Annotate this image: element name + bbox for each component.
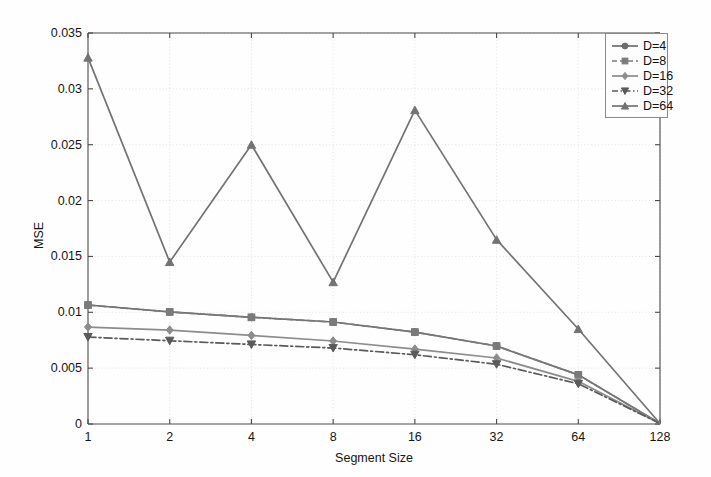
y-tick-label: 0.025	[51, 138, 82, 152]
series-d-8	[85, 302, 660, 424]
chart-legend: D=4D=8D=16D=32D=64	[605, 33, 668, 118]
x-tick-label: 1	[85, 430, 92, 444]
grid-lines	[88, 33, 660, 424]
legend-item-d-32[interactable]: D=32	[610, 83, 662, 98]
y-axis-label: MSE	[32, 221, 46, 248]
x-tick-label: 32	[490, 430, 504, 444]
legend-item-d-4[interactable]: D=4	[610, 38, 662, 53]
y-tick-label: 0.035	[51, 26, 82, 40]
series-d-32	[84, 334, 660, 424]
axis-lines	[88, 33, 660, 424]
legend-label: D=8	[643, 54, 666, 68]
legend-marker-icon	[610, 99, 640, 113]
x-tick-label: 128	[650, 430, 671, 444]
legend-marker-icon	[610, 84, 640, 98]
x-axis-label: Segment Size	[335, 451, 413, 465]
x-tick-label: 16	[408, 430, 422, 444]
y-tick-label: 0.005	[51, 361, 82, 375]
legend-label: D=4	[643, 39, 666, 53]
x-tick-label: 2	[166, 430, 173, 444]
legend-item-d-64[interactable]: D=64	[610, 98, 662, 113]
legend-label: D=16	[643, 69, 673, 83]
y-tick-label: 0.02	[58, 194, 82, 208]
x-tick-label: 8	[330, 430, 337, 444]
chart-figure: 00.0050.010.0150.020.0250.030.035 124816…	[0, 0, 711, 477]
y-tick-label: 0.01	[58, 305, 82, 319]
y-tick-label: 0.03	[58, 82, 82, 96]
x-tick-label: 4	[248, 430, 255, 444]
legend-label: D=32	[643, 84, 673, 98]
y-tick-label: 0.015	[51, 249, 82, 263]
legend-item-d-8[interactable]: D=8	[610, 53, 662, 68]
legend-marker-icon	[610, 54, 640, 68]
tick-marks	[88, 33, 660, 424]
legend-label: D=64	[643, 99, 673, 113]
y-tick-label: 0	[75, 417, 82, 431]
legend-marker-icon	[610, 69, 640, 83]
series-d-4	[85, 302, 660, 424]
x-tick-label: 64	[571, 430, 585, 444]
legend-item-d-16[interactable]: D=16	[610, 68, 662, 83]
legend-marker-icon	[610, 39, 640, 53]
